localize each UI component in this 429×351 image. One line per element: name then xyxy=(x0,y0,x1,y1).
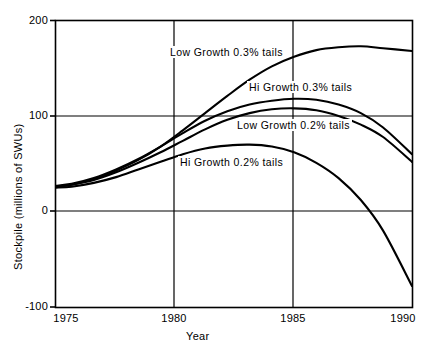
ytick-label-100: 100 xyxy=(16,109,48,121)
xtick-label-1990: 1990 xyxy=(377,312,429,324)
xtick-label-1980: 1980 xyxy=(144,312,204,324)
xtick-label-1985: 1985 xyxy=(263,312,323,324)
series-label-low-growth-03: Low Growth 0.3% tails xyxy=(168,46,285,58)
ytick-label-200: 200 xyxy=(16,14,48,26)
ytick-label-neg100: -100 xyxy=(10,300,48,312)
chart-figure: 200 100 0 -100 1975 1980 1985 1990 Year … xyxy=(0,0,429,351)
xtick-label-1975: 1975 xyxy=(36,312,96,324)
y-axis-title: Stockpile (millions of SWUs) xyxy=(12,123,24,270)
series-label-low-growth-02: Low Growth 0.2% tails xyxy=(235,119,352,131)
x-axis-title: Year xyxy=(186,330,209,342)
series-label-hi-growth-02: Hi Growth 0.2% tails xyxy=(178,156,285,168)
series-label-hi-growth-03: Hi Growth 0.3% tails xyxy=(247,81,354,93)
